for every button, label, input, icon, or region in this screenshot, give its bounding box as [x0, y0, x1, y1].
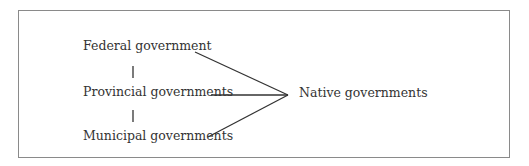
- connector-lines: [0, 0, 529, 166]
- node-native: Native governments: [299, 86, 428, 100]
- node-municipal: Municipal governments: [83, 129, 233, 143]
- node-provincial: Provincial governments: [83, 85, 233, 99]
- node-federal: Federal government: [83, 39, 212, 53]
